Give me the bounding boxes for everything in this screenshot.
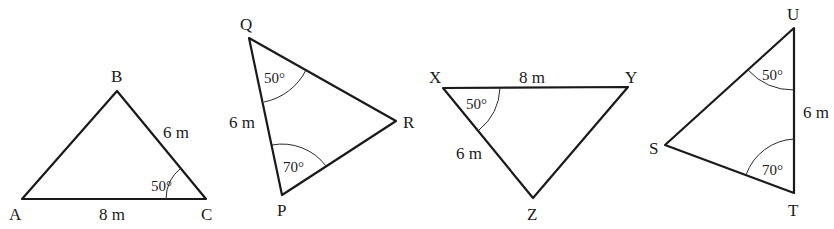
vertex-b-label: B [111, 67, 122, 86]
side-xy-length: 8 m [519, 68, 545, 87]
triangle-abc-outline [22, 91, 206, 199]
angle-p-value: 70° [283, 159, 304, 175]
triangle-xyz: X Y Z 8 m 6 m 50° [429, 68, 637, 224]
triangle-pqr-outline [249, 38, 396, 195]
angle-u-value: 50° [762, 67, 783, 83]
angle-q-value: 50° [264, 70, 285, 86]
vertex-p-label: P [277, 201, 286, 220]
angle-t-value: 70° [762, 162, 783, 178]
angle-x-value: 50° [466, 96, 487, 112]
triangle-abc: A B C 8 m 6 m 50° [9, 67, 212, 224]
vertex-x-label: X [429, 68, 441, 87]
angle-c-value: 50° [151, 178, 172, 194]
vertex-r-label: R [403, 113, 415, 132]
side-bc-length: 6 m [163, 123, 189, 142]
vertex-u-label: U [787, 5, 799, 24]
vertex-q-label: Q [240, 15, 252, 34]
side-xz-length: 6 m [456, 144, 482, 163]
triangle-pqr: Q R P 6 m 50° 70° [229, 15, 415, 220]
side-tu-length: 6 m [803, 103, 829, 122]
vertex-y-label: Y [625, 68, 637, 87]
vertex-c-label: C [201, 205, 212, 224]
vertex-s-label: S [649, 139, 658, 158]
triangles-figure: A B C 8 m 6 m 50° Q R P 6 m 50° 70° X Y … [0, 0, 834, 229]
vertex-a-label: A [9, 205, 22, 224]
side-pq-length: 6 m [229, 113, 255, 132]
vertex-z-label: Z [527, 205, 537, 224]
vertex-t-label: T [788, 201, 799, 220]
side-ac-length: 8 m [99, 205, 125, 224]
triangle-stu: U S T 6 m 50° 70° [649, 5, 829, 220]
